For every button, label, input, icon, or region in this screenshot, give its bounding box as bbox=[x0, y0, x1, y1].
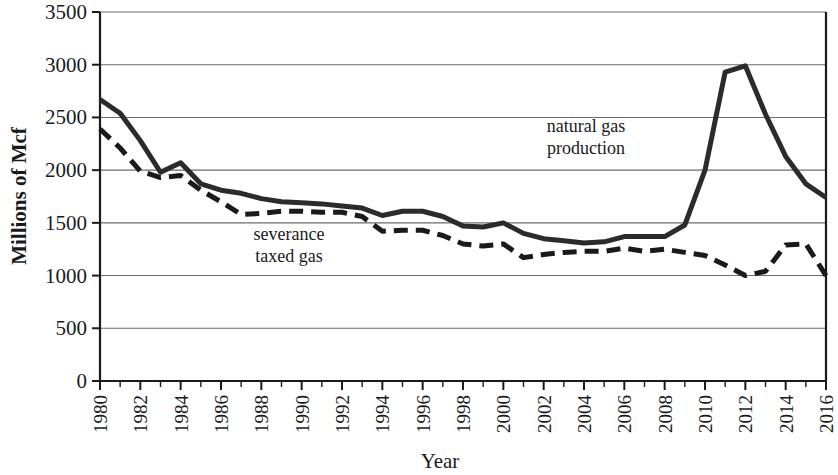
y-tick-label: 0 bbox=[77, 369, 88, 393]
x-tick-label: 2006 bbox=[614, 395, 635, 433]
x-tick-label: 2012 bbox=[735, 395, 756, 433]
x-tick-label: 2010 bbox=[695, 395, 716, 433]
x-tick-label: 1988 bbox=[251, 395, 272, 433]
chart-figure: 0500100015002000250030003500 19801982198… bbox=[0, 0, 838, 475]
y-tick-label: 3000 bbox=[45, 53, 87, 77]
y-tick-label: 3500 bbox=[45, 0, 87, 24]
x-tick-label: 1980 bbox=[90, 395, 111, 433]
y-tick-label: 1000 bbox=[45, 264, 87, 288]
y-tick-label: 500 bbox=[56, 316, 88, 340]
x-tick-label: 1996 bbox=[413, 395, 434, 433]
x-tick-label: 2008 bbox=[655, 395, 676, 433]
x-tick-label: 1994 bbox=[372, 395, 393, 434]
y-axis-ticks: 0500100015002000250030003500 bbox=[45, 0, 100, 393]
y-tick-label: 2500 bbox=[45, 105, 87, 129]
x-tick-label: 2014 bbox=[776, 395, 797, 434]
x-tick-label: 1990 bbox=[292, 395, 313, 433]
x-axis-title: Year bbox=[421, 449, 460, 473]
x-tick-label: 2004 bbox=[574, 395, 595, 434]
line-chart: 0500100015002000250030003500 19801982198… bbox=[0, 0, 838, 475]
x-axis-ticks: 1980198219841986198819901992199419961998… bbox=[90, 381, 837, 433]
y-tick-label: 1500 bbox=[45, 211, 87, 235]
y-tick-label: 2000 bbox=[45, 158, 87, 182]
x-tick-label: 1986 bbox=[211, 395, 232, 433]
x-tick-label: 1982 bbox=[130, 395, 151, 433]
x-tick-label: 2000 bbox=[493, 395, 514, 433]
y-axis-title: Millions of Mcf bbox=[7, 126, 31, 265]
x-tick-label: 1992 bbox=[332, 395, 353, 433]
x-tick-label: 1998 bbox=[453, 395, 474, 433]
x-tick-label: 2016 bbox=[816, 395, 837, 433]
x-tick-label: 1984 bbox=[171, 395, 192, 434]
x-tick-label: 2002 bbox=[534, 395, 555, 433]
